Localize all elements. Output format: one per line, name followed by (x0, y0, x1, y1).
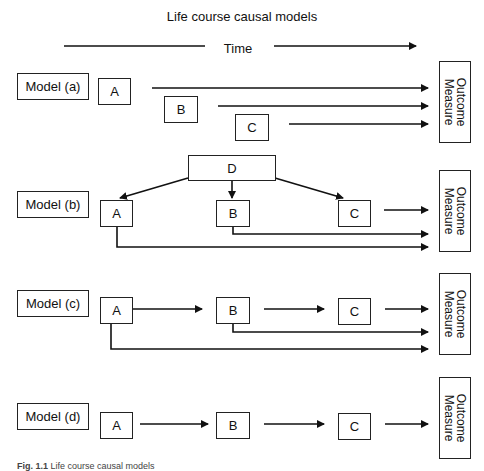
model-d-node-c: C (338, 413, 371, 440)
model-c-node-a: A (100, 297, 133, 324)
outcome-text-line2: Measure (442, 395, 456, 442)
model-d-outcome-measure: OutcomeMeasure (439, 377, 471, 459)
model-c-node-c: C (338, 298, 371, 325)
model-c-node-b: B (216, 297, 250, 324)
model-d-node-a: A (100, 412, 133, 439)
outcome-text-line1: Outcome (454, 78, 468, 127)
model-b-node-b: B (216, 200, 250, 227)
model-a-outcome-measure: OutcomeMeasure (439, 61, 471, 143)
model-b-node-c: C (338, 200, 371, 227)
caption-prefix: Fig. 1.1 (17, 461, 48, 471)
outcome-text-line1: Outcome (454, 290, 468, 339)
model-a-label: Model (a) (17, 73, 89, 100)
outcome-text-line2: Measure (442, 79, 456, 126)
outcome-text-line2: Measure (442, 291, 456, 338)
caption-text: Life course causal models (51, 461, 155, 471)
model-b-outcome-measure: OutcomeMeasure (439, 170, 471, 252)
model-c-outcome-measure: OutcomeMeasure (439, 273, 471, 355)
model-d-label: Model (d) (17, 403, 89, 430)
model-c-label: Model (c) (17, 290, 89, 317)
model-b-node-a: A (100, 200, 133, 227)
outcome-text-line1: Outcome (454, 187, 468, 236)
model-a-node-c: C (235, 114, 269, 141)
model-a-node-b: B (164, 96, 198, 123)
model-b-label: Model (b) (17, 191, 89, 218)
model-d-node-b: B (216, 412, 250, 439)
outcome-text-line1: Outcome (454, 394, 468, 443)
figure-caption: Fig. 1.1 Life course causal models (17, 461, 155, 471)
model-b-node-d: D (188, 155, 276, 181)
outcome-text-line2: Measure (442, 188, 456, 235)
model-a-node-a: A (98, 78, 131, 105)
